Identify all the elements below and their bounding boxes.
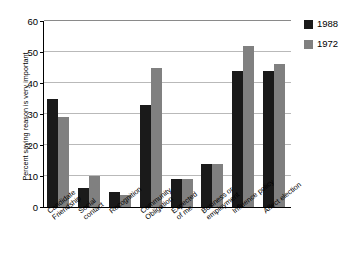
- legend-swatch-icon: [304, 40, 313, 49]
- bar: [151, 68, 162, 208]
- y-axis-tick-label: 60: [14, 16, 38, 27]
- legend: 19881972: [304, 16, 354, 56]
- legend-item: 1972: [304, 36, 354, 52]
- y-axis-tick-label: 50: [14, 47, 38, 58]
- bar: [47, 99, 58, 208]
- x-axis-tick-labels: Candidate FriendshipSocial contactRecogn…: [44, 209, 344, 275]
- y-axis-tick-label: 10: [14, 171, 38, 182]
- y-axis-tick-label: 20: [14, 140, 38, 151]
- legend-label: 1988: [317, 19, 338, 29]
- y-axis-tick-label: 30: [14, 109, 38, 120]
- y-axis-tick-label: 0: [14, 202, 38, 213]
- legend-swatch-icon: [304, 20, 313, 29]
- bar-chart: Percent saying reason is very important …: [0, 0, 356, 275]
- legend-label: 1972: [317, 39, 338, 49]
- bar: [274, 64, 285, 207]
- y-axis-tick-label: 40: [14, 78, 38, 89]
- bar-group: [44, 21, 75, 207]
- legend-item: 1988: [304, 16, 354, 32]
